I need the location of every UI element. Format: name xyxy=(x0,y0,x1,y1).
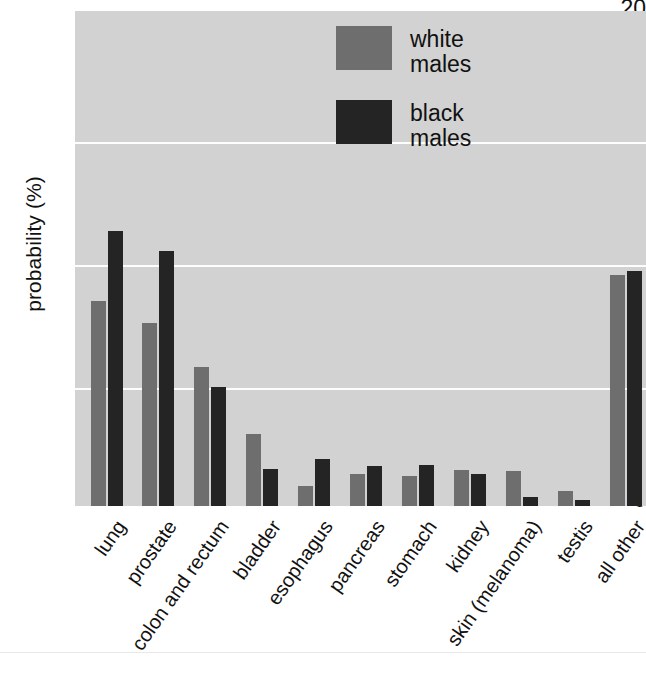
x-tick-label: testis xyxy=(552,516,598,567)
x-tick-label: colon and rectum xyxy=(127,516,234,655)
x-tick-label: stomach xyxy=(380,516,442,591)
x-tick-label: kidney xyxy=(442,516,494,577)
footer-divider xyxy=(0,652,646,653)
x-tick-label: all other xyxy=(590,516,646,587)
x-tick-label: skin (melanoma) xyxy=(442,516,546,650)
x-axis-tick-labels: lungprostatecolon and rectumbladderesoph… xyxy=(0,0,646,689)
x-tick-label: lung xyxy=(90,516,131,560)
bar-chart: probability (%) 20 15 10 5 0 white males… xyxy=(0,0,646,689)
